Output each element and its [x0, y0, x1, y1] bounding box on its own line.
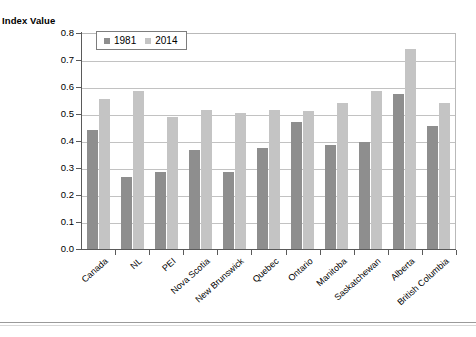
legend-entry-1981: 1981	[104, 36, 136, 46]
chart-legend: 1981 2014	[96, 31, 187, 50]
x-axis-category-label: Ontario	[286, 256, 315, 283]
bar-manitoba-2014	[337, 103, 348, 249]
y-axis-tick-label: 0.1	[48, 216, 74, 227]
bar-canada-1981	[87, 130, 98, 249]
plot-area	[81, 33, 456, 249]
bar-ontario-1981	[291, 122, 302, 249]
bar-ontario-2014	[303, 111, 314, 249]
legend-swatch-2014-icon	[145, 38, 151, 44]
bar-pei-1981	[155, 172, 166, 249]
bar-nova-scotia-2014	[201, 110, 212, 249]
bottom-divider-shadow	[0, 325, 476, 326]
y-axis-title: Index Value	[2, 15, 55, 26]
bar-alberta-1981	[393, 94, 404, 249]
x-axis-category-label: NL	[129, 256, 144, 271]
bar-canada-2014	[99, 99, 110, 249]
bar-manitoba-1981	[325, 145, 336, 249]
x-axis-category-label: Manitoba	[314, 256, 348, 288]
bar-british-columbia-2014	[439, 103, 450, 249]
legend-swatch-1981-icon	[104, 38, 110, 44]
x-axis-category-label: Alberta	[389, 256, 417, 283]
y-axis-tick-label: 0.5	[48, 108, 74, 119]
x-axis-category-label: PEI	[160, 256, 177, 273]
bar-nova-scotia-1981	[189, 150, 200, 249]
y-axis-tick-label: 0.7	[48, 54, 74, 65]
legend-label-2014: 2014	[155, 36, 177, 46]
bar-british-columbia-1981	[427, 126, 438, 249]
legend-label-1981: 1981	[114, 36, 136, 46]
y-axis-tick-label: 0.3	[48, 162, 74, 173]
bar-chart-figure: Index Value 0.00.10.20.30.40.50.60.70.8 …	[0, 0, 476, 337]
gridline	[81, 88, 455, 89]
y-axis-line	[81, 32, 82, 250]
bar-alberta-2014	[405, 49, 416, 249]
y-axis-tick-label: 0.2	[48, 189, 74, 200]
bar-saskatchewan-2014	[371, 91, 382, 249]
y-axis-tick-label: 0.6	[48, 81, 74, 92]
bar-pei-2014	[167, 117, 178, 249]
legend-entry-2014: 2014	[145, 36, 177, 46]
x-axis-category-label: Quebec	[250, 256, 280, 285]
x-axis-line	[81, 249, 456, 250]
bottom-divider	[0, 322, 476, 323]
y-axis-tick-label: 0.4	[48, 135, 74, 146]
bar-nl-2014	[133, 91, 144, 249]
y-axis-tick-label: 0.8	[48, 27, 74, 38]
y-axis-tick-label: 0.0	[48, 243, 74, 254]
gridline	[81, 61, 455, 62]
x-axis-category-label: Canada	[80, 256, 110, 285]
